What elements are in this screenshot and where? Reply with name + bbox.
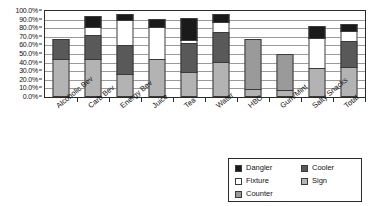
stacked-bar-chart: 0.0%10.0%20.0%30.0%40.0%50.0%60.0%70.0%8… bbox=[0, 0, 370, 206]
bars-layer bbox=[45, 11, 365, 97]
y-tick-label: 50.0% bbox=[19, 50, 38, 57]
legend-item[interactable]: Dangler bbox=[235, 162, 273, 174]
y-tick-label: 100.0% bbox=[15, 7, 38, 14]
y-tick-label: 80.0% bbox=[19, 24, 38, 31]
x-axis-labels: Alcoholic BevCarb BevEnergy BevJuiceTeaW… bbox=[0, 100, 370, 158]
y-tick-mark bbox=[39, 53, 42, 54]
legend-label: Cooler bbox=[312, 164, 334, 172]
bar-group bbox=[269, 11, 301, 97]
y-tick-label: 10.0% bbox=[19, 84, 38, 91]
y-tick-mark bbox=[39, 44, 42, 45]
bar-group bbox=[173, 11, 205, 97]
legend-column-right: CoolerSign bbox=[301, 162, 334, 188]
bar-segment-cooler bbox=[117, 45, 134, 74]
legend-swatch-icon bbox=[235, 191, 242, 198]
y-tick-label: 30.0% bbox=[19, 67, 38, 74]
y-tick-label: 40.0% bbox=[19, 58, 38, 65]
y-tick-mark bbox=[39, 96, 42, 97]
bar-segment-fixture bbox=[85, 27, 102, 36]
legend-item[interactable]: Fixture bbox=[235, 175, 273, 187]
bar-segment-dangler bbox=[213, 14, 230, 23]
y-axis: 0.0%10.0%20.0%30.0%40.0%50.0%60.0%70.0%8… bbox=[0, 10, 42, 98]
y-tick-mark bbox=[39, 35, 42, 36]
legend-swatch-icon bbox=[235, 178, 242, 185]
legend-label: Dangler bbox=[246, 164, 272, 172]
y-tick-label: 60.0% bbox=[19, 41, 38, 48]
legend-item[interactable]: Cooler bbox=[301, 162, 334, 174]
bar-segment-cooler bbox=[85, 35, 102, 60]
bar-segment-dangler bbox=[149, 19, 166, 29]
bar-segment-fixture bbox=[309, 38, 326, 70]
legend: DanglerFixtureCounter CoolerSign bbox=[228, 158, 362, 202]
y-tick-mark bbox=[39, 87, 42, 88]
bar-segment-dangler bbox=[341, 24, 358, 32]
y-tick-mark bbox=[39, 27, 42, 28]
y-tick-mark bbox=[39, 70, 42, 71]
y-tick-label: 0.0% bbox=[23, 93, 38, 100]
legend-swatch-icon bbox=[301, 178, 308, 185]
bar-segment-cooler bbox=[341, 41, 358, 68]
y-tick-label: 90.0% bbox=[19, 15, 38, 22]
legend-swatch-icon bbox=[301, 165, 308, 172]
legend-swatch-icon bbox=[235, 165, 242, 172]
bar-segment-cooler bbox=[213, 32, 230, 64]
y-tick-label: 20.0% bbox=[19, 75, 38, 82]
bar-segment-counter bbox=[245, 39, 262, 90]
bar-segment-fixture bbox=[341, 31, 358, 42]
bar-segment-cooler bbox=[53, 39, 70, 60]
bar-segment-fixture bbox=[213, 22, 230, 32]
legend-label: Sign bbox=[312, 177, 327, 185]
bar-segment-fixture bbox=[117, 20, 134, 46]
bar-group bbox=[45, 11, 77, 97]
y-tick-mark bbox=[39, 78, 42, 79]
y-tick-mark bbox=[39, 10, 42, 11]
y-tick-mark bbox=[39, 18, 42, 19]
y-tick-mark bbox=[39, 61, 42, 62]
bar-group bbox=[109, 11, 141, 97]
bar-segment-cooler bbox=[181, 43, 198, 73]
legend-label: Fixture bbox=[246, 177, 269, 185]
bar-segment-dangler bbox=[85, 16, 102, 28]
bar-group bbox=[205, 11, 237, 97]
bar-segment-dangler bbox=[117, 14, 134, 21]
y-tick-label: 70.0% bbox=[19, 32, 38, 39]
bar-segment-fixture bbox=[149, 27, 166, 60]
bar-segment-dangler bbox=[309, 26, 326, 39]
legend-item[interactable]: Sign bbox=[301, 175, 334, 187]
bar-segment-sign bbox=[181, 72, 198, 97]
bar-segment-dangler bbox=[181, 18, 198, 41]
legend-label: Counter bbox=[246, 190, 273, 198]
legend-column-left: DanglerFixtureCounter bbox=[235, 162, 273, 201]
bar-segment-counter bbox=[277, 54, 294, 91]
legend-item[interactable]: Counter bbox=[235, 188, 273, 200]
bar-group bbox=[237, 11, 269, 97]
